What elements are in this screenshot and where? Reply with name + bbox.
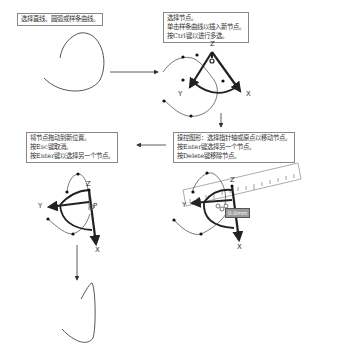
spline-curve-result (62, 283, 95, 342)
ruler-manipulator-step3 (172, 163, 301, 240)
step1-instruction: 选择直线、圆弧或样条曲线。 (17, 13, 103, 26)
axis-label-y-step2: Y (178, 90, 182, 98)
step2-line-3: 按Ctrl键以进行多选。 (167, 32, 245, 41)
origin-glyph-step4: P (93, 202, 97, 210)
step3-line-2: 按Enter键选择另一个节点。 (177, 143, 291, 152)
axis-label-z-step2: Z (210, 40, 215, 48)
axis-label-z-step3: Z (230, 176, 235, 184)
step4-line-1: 将节点拖动到新位置。 (30, 134, 114, 143)
axis-label-x-step2: X (246, 90, 251, 98)
axis-label-y-step3: Y (182, 201, 186, 209)
spline-curve-1 (44, 33, 104, 91)
step3-line-3: 按Delete键移除节点。 (177, 152, 291, 161)
axis-label-x-step4: X (95, 246, 100, 254)
step2-line-1: 选择节点。 (167, 14, 245, 23)
step2-instruction: 选择节点。 单击样条曲线以插入新节点。 按Ctrl键以进行多选。 (163, 12, 249, 43)
step3-line-1: 操控图形：选择指针轴或原点以移动节点。 (177, 134, 291, 143)
axis-label-y-step4: Y (38, 202, 42, 210)
step2-line-2: 单击样条曲线以插入新节点。 (167, 23, 245, 32)
manipulator-step2 (162, 52, 240, 118)
axis-label-x-step3: X (237, 243, 242, 251)
step4-line-3: 按Enter键以选择另一个节点。 (30, 152, 114, 161)
distance-tag: 0.0mm (225, 208, 250, 218)
axis-label-z-step4: Z (86, 180, 91, 188)
workflow-diagram (0, 0, 338, 355)
step4-instruction: 将节点拖动到新位置。 按Esc键取消。 按Enter键以选择另一个节点。 (26, 132, 118, 163)
step1-line-1: 选择直线、圆弧或样条曲线。 (21, 15, 99, 24)
step3-instruction: 操控图形：选择指针轴或原点以移动节点。 按Enter键选择另一个节点。 按Del… (173, 132, 295, 163)
step4-line-2: 按Esc键取消。 (30, 143, 114, 152)
